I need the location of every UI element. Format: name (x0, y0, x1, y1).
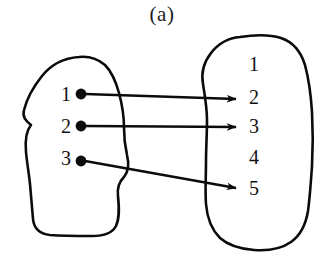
right-set-labels: 12345 (249, 53, 259, 199)
codomain-label-3: 3 (249, 115, 259, 137)
domain-label-3: 3 (61, 147, 71, 169)
codomain-label-4: 4 (249, 146, 259, 168)
codomain-label-1: 1 (249, 53, 259, 75)
domain-label-2: 2 (61, 115, 71, 137)
left-set-labels: 123 (61, 83, 71, 169)
domain-label-1: 1 (61, 83, 71, 105)
figure-canvas: (a) 123 12345 (0, 0, 324, 259)
domain-dot-1 (76, 89, 87, 100)
left-set-outline (23, 57, 128, 236)
mapping-arrow-2-to-3 (85, 126, 236, 127)
codomain-label-5: 5 (249, 177, 259, 199)
mapping-diagram: 123 12345 (0, 0, 324, 259)
domain-dot-3 (76, 156, 87, 167)
domain-dot-2 (76, 121, 87, 132)
codomain-label-2: 2 (249, 86, 259, 108)
